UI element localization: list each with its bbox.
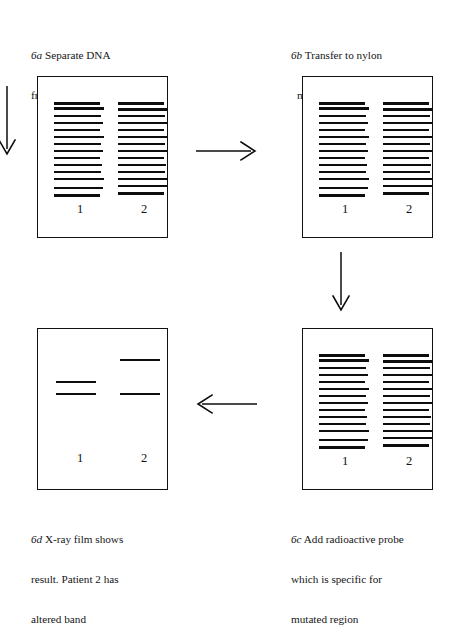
caption-6c-line-3: mutated region	[291, 613, 404, 626]
entry-arrow-down-icon	[0, 86, 18, 158]
caption-6c-line-1: Add radioactive probe	[304, 533, 404, 545]
gel-band	[319, 122, 368, 124]
gel-band	[118, 136, 168, 138]
gel-band	[54, 107, 104, 110]
arrow-right-6a-to-6b-icon	[196, 139, 258, 163]
panel-6d-xray-film: 1 2	[37, 328, 168, 490]
gel-band	[383, 122, 432, 124]
gel-band	[383, 129, 429, 131]
gel-band	[118, 178, 168, 180]
gel-band	[383, 115, 430, 117]
gel-band	[383, 185, 432, 187]
gel-band	[383, 354, 429, 357]
gel-band	[118, 129, 164, 131]
gel-band	[118, 102, 164, 105]
gel-band	[54, 178, 104, 180]
gel-band	[54, 171, 101, 173]
caption-6a-line-1: Separate DNA	[45, 49, 111, 61]
gel-band	[319, 423, 366, 425]
gel-band	[319, 359, 369, 362]
gel-band	[54, 157, 100, 159]
gel-band	[319, 115, 366, 117]
gel-band	[319, 395, 366, 397]
gel-band	[383, 157, 429, 159]
film-band	[56, 381, 96, 383]
gel-band	[54, 164, 102, 166]
gel-band	[118, 115, 165, 117]
gel-band	[383, 402, 432, 404]
gel-band	[54, 129, 100, 131]
gel-band	[118, 164, 166, 166]
panel-6b-membrane: 1 2	[302, 76, 433, 238]
gel-band	[383, 108, 433, 111]
gel-band	[54, 136, 104, 138]
panel-6d-lane-2-label: 2	[118, 452, 170, 465]
gel-band	[118, 192, 164, 195]
gel-band	[319, 157, 365, 159]
panel-6d-lane-1	[54, 329, 106, 489]
gel-band	[383, 360, 433, 363]
gel-band	[319, 129, 365, 131]
gel-band	[319, 430, 369, 432]
gel-band	[383, 430, 433, 432]
gel-band	[118, 171, 165, 173]
gel-band	[319, 164, 367, 166]
film-band	[120, 393, 160, 395]
gel-band	[319, 367, 366, 369]
gel-band	[319, 143, 366, 145]
gel-band	[319, 439, 368, 441]
gel-band	[319, 107, 369, 110]
film-band	[120, 359, 160, 361]
gel-band	[118, 150, 167, 152]
gel-band	[319, 171, 366, 173]
gel-band	[383, 409, 429, 411]
caption-6c-line-2: which is specific for	[291, 573, 404, 586]
panel-6d-lane-1-label: 1	[54, 452, 106, 465]
gel-band	[319, 409, 365, 411]
gel-band	[319, 388, 369, 390]
arrow-down-6b-to-6c-icon	[330, 252, 352, 314]
gel-band	[383, 367, 430, 369]
panel-6c-probe: 1 2	[302, 328, 433, 490]
gel-band	[319, 194, 365, 197]
gel-band	[383, 444, 429, 447]
gel-band	[319, 150, 368, 152]
gel-band	[319, 402, 368, 404]
gel-band	[319, 446, 365, 449]
step-label-6d: 6d	[31, 533, 42, 545]
gel-band	[383, 374, 432, 376]
step-label-6a: 6a	[31, 49, 42, 61]
gel-band	[383, 388, 433, 390]
gel-band	[383, 143, 430, 145]
caption-6d-line-3: altered band	[31, 613, 123, 626]
step-label-6b: 6b	[291, 49, 302, 61]
gel-band	[319, 381, 365, 383]
panel-6a-lane-2-label: 2	[118, 203, 170, 216]
gel-band	[319, 416, 367, 418]
gel-band	[383, 416, 431, 418]
gel-band	[319, 354, 365, 357]
caption-6d-line-1: X-ray film shows	[45, 533, 123, 545]
gel-band	[383, 192, 429, 195]
panel-6b-lane-2-label: 2	[383, 203, 435, 216]
panel-6d-lane-2	[118, 329, 170, 489]
gel-band	[383, 171, 430, 173]
gel-band	[118, 108, 168, 111]
panel-6a-lane-1-label: 1	[54, 203, 106, 216]
gel-band	[383, 150, 432, 152]
caption-6b-line-1: Transfer to nylon	[305, 49, 382, 61]
gel-band	[54, 187, 103, 189]
gel-band	[319, 178, 369, 180]
gel-band	[54, 102, 100, 105]
gel-band	[383, 437, 432, 439]
panel-6c-lane-1-label: 1	[319, 455, 371, 468]
gel-band	[383, 164, 431, 166]
gel-band	[383, 102, 429, 105]
arrow-left-6c-to-6d-icon	[195, 392, 257, 416]
panel-6b-lane-1-label: 1	[319, 203, 371, 216]
gel-band	[383, 136, 433, 138]
gel-band	[54, 122, 103, 124]
gel-band	[54, 194, 100, 197]
gel-band	[54, 150, 103, 152]
